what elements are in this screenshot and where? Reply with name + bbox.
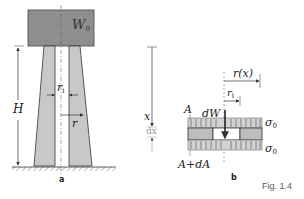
right-pillar	[69, 46, 92, 166]
dx-label: dx	[146, 127, 157, 136]
height-label: H	[13, 103, 23, 115]
panel-a-label: a	[59, 176, 64, 184]
radius-label: r	[72, 118, 77, 129]
element-hollow	[213, 128, 240, 140]
element-left	[188, 128, 213, 140]
panel-b-label: b	[231, 174, 237, 182]
left-pillar	[34, 46, 55, 166]
weight-label: W0	[72, 18, 90, 33]
stress-bottom-label: σ0	[265, 143, 277, 156]
inner-radius-label: ri	[57, 82, 65, 95]
inner-radius-label-b: ri	[227, 88, 234, 100]
stress-top-label: σ0	[265, 117, 277, 130]
ground-hatch	[12, 167, 116, 171]
panel-b	[147, 47, 262, 162]
x-axis-label: x	[144, 111, 150, 122]
bottom-area-label: A+dA	[178, 159, 210, 170]
figure-caption: Fig. 1.4	[262, 181, 292, 191]
element-right	[240, 128, 262, 140]
weight-increment-label: dW	[202, 108, 220, 119]
top-area-label: A	[184, 104, 192, 115]
radius-fn-label: r(x)	[233, 68, 253, 79]
diagram-canvas	[0, 0, 304, 199]
